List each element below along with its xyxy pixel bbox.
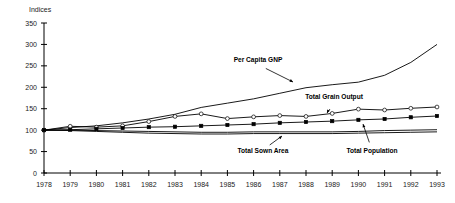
- data-point-marker: [199, 112, 203, 116]
- x-axis-tick-label: 1985: [220, 181, 236, 188]
- annotation-layer: Per Capita GNPTotal Grain OutputTotal So…: [234, 56, 398, 155]
- data-point-marker: [304, 120, 307, 123]
- data-point-marker: [357, 118, 360, 121]
- data-point-marker: [226, 123, 229, 126]
- x-axis-tick-label: 1979: [62, 181, 78, 188]
- data-point-marker: [357, 107, 361, 111]
- data-point-marker: [173, 125, 176, 128]
- data-point-marker: [304, 115, 308, 119]
- x-axis-tick-label: 1992: [403, 181, 419, 188]
- y-axis-tick-label: 0: [33, 170, 37, 177]
- x-axis-tick-label: 1989: [324, 181, 340, 188]
- data-point-marker: [409, 116, 412, 119]
- data-point-marker: [383, 117, 386, 120]
- data-point-marker: [147, 126, 150, 129]
- data-point-marker: [252, 115, 256, 119]
- data-point-marker: [226, 117, 230, 121]
- annotation-per-capita-gnp: Per Capita GNP: [234, 56, 293, 82]
- data-point-marker: [278, 121, 281, 124]
- data-point-marker: [95, 127, 98, 130]
- x-axis-tick-label: 1981: [115, 181, 131, 188]
- y-axis-tick-label: 350: [25, 20, 37, 27]
- x-axis-tick-label: 1987: [272, 181, 288, 188]
- annotation-label: Per Capita GNP: [234, 56, 283, 64]
- data-point-marker: [435, 114, 438, 117]
- y-axis-tick-label: 250: [25, 62, 37, 69]
- x-axis: 1978197919801981198219831984198519861987…: [36, 170, 445, 188]
- data-point-marker: [147, 120, 151, 124]
- data-point-marker: [68, 124, 72, 128]
- x-axis-tick-label: 1978: [36, 181, 52, 188]
- data-point-marker: [409, 106, 413, 110]
- annotation-label: Total Sown Area: [238, 147, 289, 154]
- annotation-total-population: Total Population: [346, 124, 397, 155]
- x-axis-tick-label: 1993: [429, 181, 445, 188]
- series-total-grain-output: [42, 105, 439, 132]
- x-axis-tick-label: 1984: [193, 181, 209, 188]
- annotation-leader-line: [266, 68, 293, 82]
- data-point-marker: [383, 108, 387, 112]
- y-axis-tick-label: 50: [29, 148, 37, 155]
- data-point-marker: [121, 126, 124, 129]
- x-axis-tick-label: 1983: [167, 181, 183, 188]
- annotation-label: Total Grain Output: [305, 93, 364, 101]
- line-chart: 050100150200250300350 197819791980198119…: [0, 0, 455, 203]
- y-axis-tick-label: 300: [25, 41, 37, 48]
- y-axis-tick-label: 150: [25, 105, 37, 112]
- data-point-marker: [173, 115, 177, 119]
- data-point-marker: [330, 112, 334, 116]
- data-point-marker: [331, 120, 334, 123]
- y-axis: 050100150200250300350: [25, 20, 47, 177]
- annotation-arrowhead: [363, 124, 366, 128]
- x-axis-tick-label: 1986: [246, 181, 262, 188]
- data-point-marker: [278, 114, 282, 118]
- x-axis-tick-label: 1980: [89, 181, 105, 188]
- data-point-marker: [435, 105, 439, 109]
- y-axis-tick-label: 100: [25, 127, 37, 134]
- x-axis-tick-label: 1990: [351, 181, 367, 188]
- series-path: [44, 107, 437, 130]
- data-point-marker: [200, 124, 203, 127]
- x-axis-tick-label: 1982: [141, 181, 157, 188]
- data-point-marker: [252, 123, 255, 126]
- y-axis-tick-label: 200: [25, 84, 37, 91]
- x-axis-tick-label: 1988: [298, 181, 314, 188]
- annotation-total-sown-area: Total Sown Area: [238, 136, 289, 154]
- annotation-arrowhead: [279, 136, 282, 139]
- annotation-label: Total Population: [346, 147, 397, 155]
- y-axis-title: Indices: [29, 6, 52, 13]
- x-axis-tick-label: 1991: [377, 181, 393, 188]
- series-total-population: [42, 114, 438, 131]
- chart-container: 050100150200250300350 197819791980198119…: [0, 0, 455, 203]
